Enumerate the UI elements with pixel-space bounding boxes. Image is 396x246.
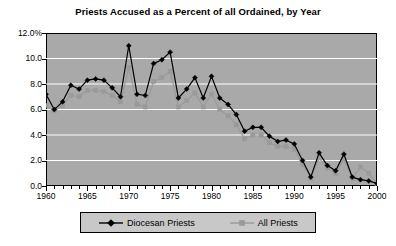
x-axis-tick-minor bbox=[344, 186, 345, 189]
x-axis-tick-minor bbox=[145, 186, 146, 189]
data-point-marker bbox=[201, 96, 206, 101]
data-point-marker bbox=[242, 129, 247, 134]
data-point-marker bbox=[367, 171, 371, 175]
x-axis-tick-minor bbox=[327, 186, 328, 189]
data-point-marker bbox=[259, 133, 263, 137]
data-point-marker bbox=[127, 65, 131, 69]
data-point-marker bbox=[185, 98, 189, 102]
data-point-marker bbox=[284, 144, 288, 148]
data-point-marker bbox=[176, 105, 180, 109]
data-point-marker bbox=[102, 90, 106, 94]
data-point-marker bbox=[77, 95, 81, 99]
x-axis-tick-minor bbox=[63, 186, 64, 189]
plot-area-wrapper bbox=[46, 33, 377, 186]
y-axis-tick-label: 8.0 bbox=[0, 80, 42, 88]
x-axis-tick-minor bbox=[54, 186, 55, 189]
diamond-marker-icon bbox=[98, 217, 124, 229]
data-point-marker bbox=[276, 144, 280, 148]
x-axis-tick-label: 1990 bbox=[274, 192, 314, 201]
x-axis-tick-minor bbox=[178, 186, 179, 189]
data-point-marker bbox=[94, 88, 98, 92]
x-axis-tick-minor bbox=[261, 186, 262, 189]
x-axis-tick-minor bbox=[137, 186, 138, 189]
x-axis-tick-minor bbox=[269, 186, 270, 189]
data-point-marker bbox=[250, 125, 255, 130]
data-point-marker bbox=[251, 133, 255, 137]
data-point-marker bbox=[209, 92, 213, 96]
data-point-marker bbox=[69, 93, 73, 97]
square-marker-icon bbox=[229, 217, 255, 229]
data-point-marker bbox=[168, 69, 172, 73]
data-point-marker bbox=[283, 138, 288, 143]
data-point-marker bbox=[118, 100, 122, 104]
x-axis-tick-minor bbox=[104, 186, 105, 189]
x-axis-tick-label: 1985 bbox=[233, 192, 273, 201]
y-axis-tick-label: 10.0 bbox=[0, 54, 42, 62]
x-axis-tick-label: 1970 bbox=[109, 192, 149, 201]
x-axis-tick-minor bbox=[352, 186, 353, 189]
chart-container: Priests Accused as a Percent of all Orda… bbox=[0, 0, 396, 246]
data-point-marker bbox=[85, 88, 89, 92]
chart-plot bbox=[46, 33, 377, 186]
data-point-marker bbox=[358, 177, 363, 182]
data-point-marker bbox=[366, 178, 371, 183]
x-axis-tick-minor bbox=[120, 186, 121, 189]
x-axis-tick-minor bbox=[112, 186, 113, 189]
chart-title: Priests Accused as a Percent of all Orda… bbox=[0, 6, 396, 17]
x-axis-tick-minor bbox=[228, 186, 229, 189]
series-diocesan-priests bbox=[46, 43, 377, 186]
data-point-marker bbox=[135, 102, 139, 106]
data-point-marker bbox=[143, 93, 148, 98]
x-axis-tick-minor bbox=[245, 186, 246, 189]
data-point-marker bbox=[151, 79, 155, 83]
legend-entry[interactable]: All Priests bbox=[229, 217, 298, 229]
x-axis-tick-minor bbox=[360, 186, 361, 189]
data-point-marker bbox=[267, 141, 271, 145]
data-point-marker bbox=[93, 76, 98, 81]
legend-entry[interactable]: Diocesan Priests bbox=[98, 217, 195, 229]
data-point-marker bbox=[160, 76, 164, 80]
data-point-marker bbox=[201, 105, 205, 109]
data-point-marker bbox=[341, 152, 346, 157]
chart-legend: Diocesan PriestsAll Priests bbox=[80, 212, 316, 233]
legend-label: All Priests bbox=[258, 218, 298, 228]
data-point-marker bbox=[234, 123, 238, 127]
x-axis-tick-minor bbox=[203, 186, 204, 189]
data-point-marker bbox=[358, 165, 362, 169]
data-point-marker bbox=[143, 105, 147, 109]
x-axis-tick-minor bbox=[236, 186, 237, 189]
x-axis-tick-minor bbox=[220, 186, 221, 189]
x-axis-tick-minor bbox=[195, 186, 196, 189]
y-axis-tick-label: 0.0 bbox=[0, 182, 42, 190]
data-point-marker bbox=[193, 91, 197, 95]
x-axis-tick-minor bbox=[187, 186, 188, 189]
x-axis-tick-minor bbox=[286, 186, 287, 189]
y-axis-tick-label: 6.0 bbox=[0, 105, 42, 113]
data-point-marker bbox=[243, 137, 247, 141]
y-axis-tick-label: 2.0 bbox=[0, 156, 42, 164]
x-axis-tick-minor bbox=[303, 186, 304, 189]
x-axis-tick-minor bbox=[96, 186, 97, 189]
x-axis-tick-label: 1995 bbox=[316, 192, 356, 201]
x-axis-tick-minor bbox=[319, 186, 320, 189]
data-point-marker bbox=[218, 107, 222, 111]
data-point-marker bbox=[110, 93, 114, 97]
x-axis-tick-label: 1975 bbox=[150, 192, 190, 201]
x-axis-tick-label: 2000 bbox=[357, 192, 396, 201]
x-axis-tick-minor bbox=[79, 186, 80, 189]
x-axis-tick-minor bbox=[154, 186, 155, 189]
x-axis-tick-minor bbox=[369, 186, 370, 189]
data-point-marker bbox=[126, 43, 131, 48]
legend-label: Diocesan Priests bbox=[127, 218, 195, 228]
x-axis-tick-minor bbox=[162, 186, 163, 189]
y-axis-tick-label: 12.0% bbox=[0, 29, 42, 37]
x-axis-tick-minor bbox=[278, 186, 279, 189]
data-point-marker bbox=[209, 74, 214, 79]
x-axis-tick-minor bbox=[71, 186, 72, 189]
x-axis-tick-minor bbox=[311, 186, 312, 189]
x-axis-tick-label: 1980 bbox=[192, 192, 232, 201]
data-point-marker bbox=[292, 141, 297, 146]
x-axis-tick-label: 1965 bbox=[67, 192, 107, 201]
x-axis-tick-label: 1960 bbox=[26, 192, 66, 201]
y-axis-tick-label: 4.0 bbox=[0, 131, 42, 139]
